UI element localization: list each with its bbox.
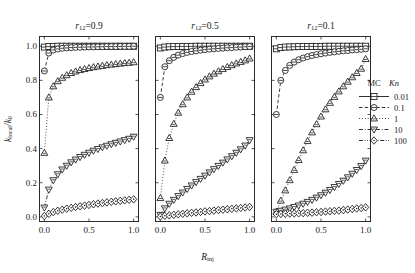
marker-inner-dot xyxy=(213,210,215,212)
marker-inner-dot xyxy=(57,210,59,212)
legend-sample-triangle-down-icon xyxy=(358,124,390,135)
legend-marker xyxy=(371,127,378,133)
marker-inner-dot xyxy=(160,216,162,218)
marker-inner-dot xyxy=(302,212,304,214)
data-point-marker xyxy=(362,55,369,61)
data-point-marker xyxy=(313,121,320,127)
chart-panel-1: r12=0.9 0.00.20.40.60.81.0 klocal/k0 0.0… xyxy=(39,36,139,222)
data-point-marker xyxy=(166,134,173,140)
marker-inner-dot xyxy=(102,202,104,204)
marker-inner-dot xyxy=(173,214,175,216)
marker-inner-dot xyxy=(231,208,233,210)
data-point-marker xyxy=(184,94,191,100)
legend-glyph xyxy=(358,135,390,146)
x-tick-label: 1.0 xyxy=(128,226,139,235)
marker-inner-dot xyxy=(227,208,229,210)
marker-inner-dot xyxy=(186,213,188,215)
marker-inner-dot xyxy=(93,204,95,206)
y-tick-label: 0.8 xyxy=(26,76,37,85)
x-tick-label: 0.0 xyxy=(155,226,166,235)
marker-inner-dot xyxy=(365,207,367,209)
series-diamond xyxy=(41,196,137,220)
legend-value-label: 0.1 xyxy=(390,103,405,113)
data-point-marker xyxy=(322,106,329,112)
data-point-marker xyxy=(170,120,177,126)
marker-inner-dot xyxy=(343,209,345,211)
marker-inner-dot xyxy=(307,212,309,214)
legend-glyph xyxy=(358,102,390,113)
x-tick-label: 0.5 xyxy=(83,226,94,235)
figure-root: r12=0.9 0.00.20.40.60.81.0 klocal/k0 0.0… xyxy=(0,0,415,273)
data-point-marker xyxy=(371,127,378,133)
marker-inner-dot xyxy=(53,211,55,213)
marker-inner-dot xyxy=(280,213,282,215)
marker-inner-dot xyxy=(70,207,72,209)
x-tick-label: 1.0 xyxy=(360,226,371,235)
legend-sample-circle-icon xyxy=(358,102,390,113)
marker-inner-dot xyxy=(320,211,322,213)
marker-inner-dot xyxy=(222,209,224,211)
legend-item-kn-0.1[interactable]: 0.1 xyxy=(358,102,414,113)
legend-marker xyxy=(371,105,377,111)
marker-inner-dot xyxy=(177,214,179,216)
marker-inner-dot xyxy=(293,213,295,215)
marker-inner-dot xyxy=(169,215,171,217)
marker-inner-dot xyxy=(128,199,130,201)
legend-value-label: 100 xyxy=(390,136,407,146)
data-point-marker xyxy=(54,172,61,178)
marker-inner-dot xyxy=(200,211,202,213)
marker-inner-dot xyxy=(316,212,318,214)
data-point-marker xyxy=(175,109,182,115)
data-point-marker xyxy=(286,177,293,183)
x-tick-labels: 0.00.51.0 xyxy=(155,222,255,236)
panel-title-1: r12=0.9 xyxy=(39,21,139,31)
marker-inner-dot xyxy=(66,208,68,210)
panel-plot-svg xyxy=(155,36,255,222)
series-diamond xyxy=(157,203,253,220)
marker-inner-dot xyxy=(209,210,211,212)
data-point-marker xyxy=(161,206,168,212)
x-tick-labels: 0.00.51.0 xyxy=(39,222,139,236)
marker-inner-dot xyxy=(325,211,327,213)
marker-inner-dot xyxy=(48,213,50,215)
legend-item-kn-1[interactable]: 1 xyxy=(358,113,414,124)
data-point-marker xyxy=(291,166,298,172)
data-point-marker xyxy=(282,187,289,193)
x-tick-label: 0.5 xyxy=(199,226,210,235)
series-circle xyxy=(157,44,252,101)
marker-inner-dot xyxy=(329,210,331,212)
legend-glyph xyxy=(358,113,390,124)
legend-item-kn-10[interactable]: 10 xyxy=(358,124,414,135)
legend-item-kn-100[interactable]: 100 xyxy=(358,135,414,146)
data-point-marker xyxy=(45,94,52,100)
plot-area-2 xyxy=(155,36,255,222)
marker-inner-dot xyxy=(338,210,340,212)
marker-inner-dot xyxy=(133,199,135,201)
marker-inner-dot xyxy=(97,203,99,205)
marker-inner-dot xyxy=(352,208,354,210)
legend-item-kn-0.01[interactable]: 0.01 xyxy=(358,91,414,102)
data-point-marker xyxy=(277,197,284,203)
x-tick-label: 0.0 xyxy=(271,226,282,235)
panel-plot-svg xyxy=(39,36,139,222)
marker-inner-dot xyxy=(334,210,336,212)
legend-sample-triangle-up-icon xyxy=(358,113,390,124)
data-point-marker xyxy=(50,178,57,184)
series-circle xyxy=(273,46,368,118)
panel-title-2: r12=0.5 xyxy=(155,21,255,31)
marker-inner-dot xyxy=(311,212,313,214)
plot-area-3 xyxy=(271,36,371,222)
data-point-marker xyxy=(157,195,164,201)
marker-inner-dot xyxy=(347,209,349,211)
legend-header-mc: MC xyxy=(359,78,389,88)
marker-inner-dot xyxy=(285,213,287,215)
marker-inner-dot xyxy=(373,140,375,142)
marker-inner-dot xyxy=(218,209,220,211)
legend-sample-diamond-icon xyxy=(358,135,390,146)
data-point-marker xyxy=(295,156,302,162)
marker-inner-dot xyxy=(79,206,81,208)
legend: MC Kn 0.010.1110100 xyxy=(358,78,414,146)
data-point-marker xyxy=(300,147,307,153)
marker-inner-dot xyxy=(204,211,206,213)
y-tick-label: 1.0 xyxy=(26,42,37,51)
